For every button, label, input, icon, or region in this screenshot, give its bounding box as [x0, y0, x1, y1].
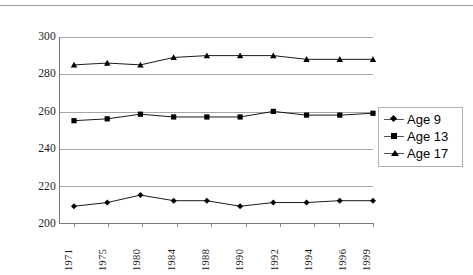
legend-label-age-17: Age 17 — [404, 147, 448, 161]
x-tick-label-1984: 1984 — [165, 231, 178, 271]
x-tick-mark-1971 — [74, 223, 75, 227]
x-tick-mark-1992 — [280, 223, 281, 227]
x-tick-mark-1999 — [373, 223, 374, 227]
legend-item-age-9[interactable]: Age 9 — [379, 111, 462, 128]
x-tick-label-1999: 1999 — [360, 231, 373, 271]
y-axis-line — [59, 37, 60, 224]
y-axis-tick-labels: 300 280 260 240 220 200 — [0, 0, 56, 275]
y-tick-label-220: 220 — [4, 181, 56, 192]
x-tick-mark-1984 — [177, 223, 178, 227]
x-tick-mark-1988 — [211, 223, 212, 227]
legend-marker-triangle-icon — [384, 148, 404, 160]
y-tick-label-260: 260 — [4, 106, 56, 117]
y-tick-label-280: 280 — [4, 68, 56, 79]
gridline-240 — [59, 149, 373, 150]
x-tick-label-1994: 1994 — [302, 231, 315, 271]
legend-label-age-13: Age 13 — [404, 130, 448, 144]
legend-marker-diamond-icon — [384, 114, 404, 126]
gridline-260 — [59, 112, 373, 113]
chart-legend: Age 9 Age 13 Age 17 — [378, 107, 463, 167]
y-tick-label-300: 300 — [4, 31, 56, 42]
x-tick-label-1988: 1988 — [199, 231, 212, 271]
x-tick-mark-1980 — [142, 223, 143, 227]
plot-area — [59, 37, 373, 223]
legend-item-age-13[interactable]: Age 13 — [379, 128, 462, 145]
line-chart: 300 280 260 240 220 200 1971 1975 1980 1… — [0, 0, 473, 275]
legend-label-age-9: Age 9 — [404, 113, 441, 127]
x-tick-label-1980: 1980 — [130, 231, 143, 271]
legend-marker-square-icon — [384, 131, 404, 143]
x-axis-line — [59, 223, 374, 224]
legend-item-age-17[interactable]: Age 17 — [379, 145, 462, 162]
gridline-220 — [59, 186, 373, 187]
x-tick-label-1990: 1990 — [233, 231, 246, 271]
gridline-300 — [59, 37, 373, 38]
x-tick-mark-1996 — [339, 223, 340, 227]
x-tick-label-1975: 1975 — [96, 231, 109, 271]
gridline-280 — [59, 74, 373, 75]
y-tick-label-200: 200 — [4, 218, 56, 229]
x-tick-label-1992: 1992 — [268, 231, 281, 271]
x-tick-mark-1990 — [246, 223, 247, 227]
x-tick-mark-1975 — [108, 223, 109, 227]
x-tick-label-1971: 1971 — [62, 231, 75, 271]
x-tick-mark-1994 — [314, 223, 315, 227]
x-tick-label-1996: 1996 — [336, 231, 349, 271]
y-tick-label-240: 240 — [4, 143, 56, 154]
